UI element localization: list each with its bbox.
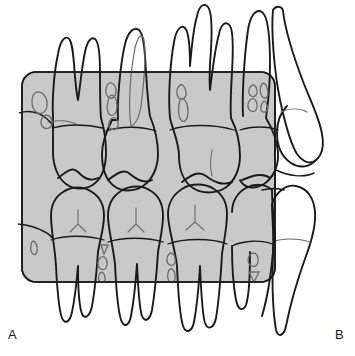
- dental-illustration-svg: [0, 0, 355, 356]
- panel-label-b: B: [335, 327, 344, 342]
- upper-right-premolar-apex-line: [276, 170, 314, 176]
- panel-label-a: A: [8, 327, 17, 342]
- lower-right-premolar: [272, 186, 315, 335]
- upper-right-premolar: [272, 7, 322, 163]
- lower-right-premolar-cej: [272, 239, 310, 242]
- dental-radiograph-figure: A B: [0, 0, 355, 356]
